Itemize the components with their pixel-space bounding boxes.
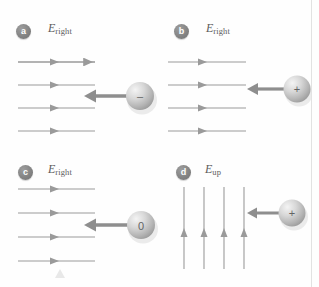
force-arrow-head <box>247 208 257 219</box>
field-arrowhead <box>50 234 59 241</box>
field-arrowhead <box>50 258 59 265</box>
field-arrowhead <box>50 105 59 112</box>
field-lines-d <box>184 187 244 269</box>
field-arrowhead <box>50 82 59 89</box>
figure-canvas: a Eright <box>0 0 319 287</box>
charge-sign-a: – <box>137 90 144 102</box>
panel-c: c Eright <box>0 145 160 287</box>
force-arrow-c <box>84 219 132 232</box>
panel-a-graphics: – <box>0 0 160 145</box>
field-arrowhead <box>50 210 59 217</box>
field-line-arrowheads-d <box>181 228 248 237</box>
field-arrowhead <box>198 82 207 89</box>
force-arrow-head <box>84 219 96 232</box>
panel-d-graphics: + <box>160 145 312 287</box>
panel-b-graphics: + <box>160 0 312 145</box>
field-arrowhead <box>181 228 188 237</box>
force-arrow-head <box>84 90 96 103</box>
field-arrowhead <box>50 59 59 66</box>
field-arrowhead <box>198 105 207 112</box>
force-arrow-a <box>84 90 132 103</box>
watermark-mark <box>55 269 65 278</box>
field-line-arrowheads-c <box>50 186 59 265</box>
panel-c-graphics: 0 <box>0 145 160 287</box>
force-arrow-b <box>247 83 288 95</box>
field-arrowhead <box>50 128 59 135</box>
panel-b: b Eright <box>160 0 312 145</box>
panel-a: a Eright <box>0 0 160 145</box>
field-arrowhead <box>241 228 248 237</box>
field-line-arrowheads-a <box>50 59 59 135</box>
panel-d: d Eup + <box>160 145 312 287</box>
field-arrowhead <box>201 228 208 237</box>
field-arrowhead <box>50 186 59 193</box>
charge-sign-c: 0 <box>138 220 144 232</box>
field-arrowhead <box>198 128 207 135</box>
field-line-arrowheads-b <box>198 59 207 135</box>
field-arrowhead <box>198 59 207 66</box>
charge-sign-d: + <box>289 207 295 219</box>
figure-right-border <box>311 0 312 287</box>
field-lines-b <box>168 62 246 131</box>
field-lines-c <box>18 189 95 261</box>
field-arrowhead <box>221 228 228 237</box>
force-arrow-head <box>247 83 258 95</box>
force-arrow-d <box>247 208 282 219</box>
field-lines-a-full <box>18 62 95 131</box>
charge-sign-b: + <box>294 83 300 95</box>
